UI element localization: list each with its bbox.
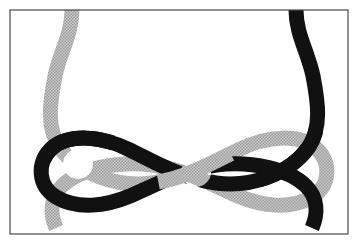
- figure-root: [0, 0, 356, 242]
- knot-diagram-canvas: [0, 0, 356, 242]
